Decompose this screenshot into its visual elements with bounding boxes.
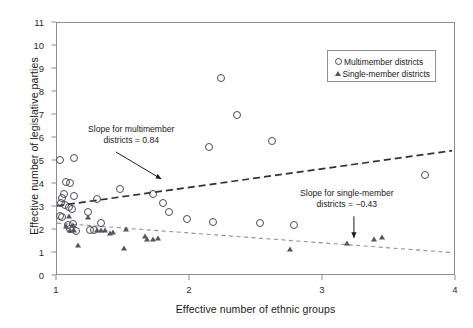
filled-triangle-icon: [333, 71, 343, 76]
legend-item-multimember: Multimember districts: [333, 56, 430, 67]
scatter-chart: Effective number of legislative parties …: [0, 0, 473, 328]
annotation-single-member: Slope for single-member districts = −0.4…: [300, 188, 394, 210]
annotation-multimember-line1: Slope for multimember: [88, 124, 174, 135]
legend-label-multimember: Multimember districts: [344, 57, 423, 67]
chart-legend: Multimember districts Single-member dist…: [327, 50, 436, 82]
legend-label-single-member: Single-member districts: [343, 69, 431, 79]
annotation-single-member-line2: districts = −0.43: [300, 199, 394, 210]
annotation-single-member-line1: Slope for single-member: [300, 188, 394, 199]
open-circle-icon: [333, 58, 344, 65]
annotation-multimember: Slope for multimember districts = 0.84: [88, 124, 174, 146]
annotation-multimember-line2: districts = 0.84: [88, 135, 174, 146]
legend-item-single-member: Single-member districts: [333, 68, 430, 79]
annotation-arrow: [116, 152, 161, 179]
